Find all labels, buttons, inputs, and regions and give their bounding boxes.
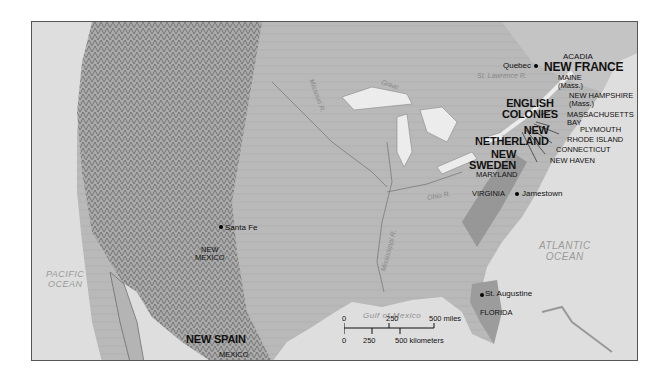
- new-netherland-label: NEW NETHERLAND: [475, 125, 549, 147]
- mexico-label: MEXICO: [219, 351, 249, 359]
- new-france-label: NEW FRANCE: [544, 61, 623, 73]
- massachusetts-bay-label: MASSACHUSETTS BAY: [567, 111, 634, 126]
- scale-bar-lines: [344, 323, 444, 335]
- jamestown-marker: [515, 192, 519, 196]
- acadia-label: ACADIA: [563, 53, 593, 61]
- maryland-label: MARYLAND: [476, 171, 518, 179]
- st-augustine-marker: [480, 293, 484, 297]
- rhode-island-label: RHODE ISLAND: [567, 136, 623, 144]
- santa-fe-marker: [219, 225, 223, 229]
- plymouth-label: PLYMOUTH: [580, 126, 621, 134]
- english-colonies-label: ENGLISH COLONIES: [502, 98, 558, 120]
- virginia-label: VIRGINIA: [472, 190, 505, 198]
- map-frame: PACIFIC OCEAN ATLANTIC OCEAN Gulf of Mex…: [31, 21, 638, 361]
- atlantic-ocean-label: ATLANTIC OCEAN: [539, 240, 591, 262]
- new-spain-label: NEW SPAIN: [186, 334, 246, 345]
- new-mexico-label: NEW MEXICO: [195, 246, 225, 261]
- st-lawrence-label: St. Lawrence R.: [477, 72, 527, 79]
- jamestown-label: Jamestown: [522, 190, 562, 198]
- new-sweden-label: NEW SWEDEN: [469, 149, 516, 171]
- scale-bar: 0 250 500 miles 0 250 500 kilometers: [342, 312, 512, 352]
- quebec-marker: [534, 64, 538, 68]
- maine-label: MAINE (Mass.): [558, 74, 583, 89]
- connecticut-label: CONNECTICUT: [556, 146, 611, 154]
- st-augustine-label: St. Augustine: [485, 290, 532, 298]
- new-hampshire-label: NEW HAMPSHIRE (Mass.): [569, 92, 633, 107]
- new-haven-label: NEW HAVEN: [550, 157, 595, 165]
- pacific-ocean-label: PACIFIC OCEAN: [46, 270, 84, 290]
- santa-fe-label: Santa Fe: [225, 224, 257, 232]
- quebec-label: Quebec: [503, 62, 531, 70]
